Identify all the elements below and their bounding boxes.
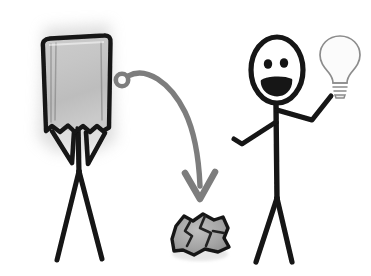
illustration-canvas: Stick figure with paper bag on head besi… <box>0 0 371 276</box>
stick-figure-illustration <box>0 0 371 276</box>
paper-bag <box>43 35 111 132</box>
arrow-shaft <box>128 73 200 186</box>
idea-figure <box>234 36 360 262</box>
right-eye <box>280 58 288 68</box>
light-bulb-glass <box>320 36 360 83</box>
curved-arrow <box>116 73 215 199</box>
idea-figure-left-arm <box>234 122 276 144</box>
light-bulb-base <box>333 83 347 98</box>
crumpled-paper-ball <box>172 214 229 261</box>
smiling-mouth <box>262 78 291 95</box>
bagged-figure <box>38 24 116 260</box>
idea-figure-head <box>251 37 303 103</box>
left-eye <box>264 59 272 69</box>
light-bulb <box>320 36 360 98</box>
paper-bag-fill <box>44 37 109 131</box>
